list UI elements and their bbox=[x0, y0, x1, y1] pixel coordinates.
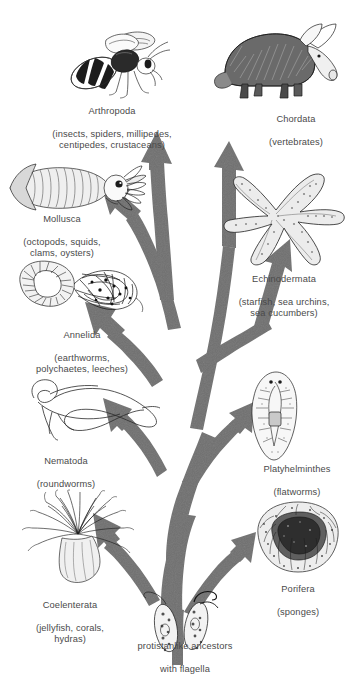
illustration-honeybee bbox=[62, 28, 172, 100]
label-porifera-comment: (sponges) bbox=[248, 607, 348, 619]
label-annelida: Annelida (earthworms, polychaetes, leech… bbox=[8, 318, 156, 388]
arrow-platyhelminthes bbox=[182, 420, 242, 489]
illustration-starfish bbox=[206, 170, 348, 268]
label-chordata-name: Chordata bbox=[236, 114, 356, 126]
label-platyhelminthes-name: Platyhelminthes bbox=[238, 464, 356, 476]
label-nematoda-comment: (roundworms) bbox=[8, 479, 124, 491]
label-annelida-name: Annelida bbox=[8, 330, 156, 342]
illustration-sponge bbox=[248, 498, 346, 578]
label-porifera-name: Porifera bbox=[248, 584, 348, 596]
label-echinodermata: Echinodermata (starfish, sea urchins, se… bbox=[212, 262, 356, 332]
label-annelida-comment: (earthworms, polychaetes, leeches) bbox=[8, 353, 156, 376]
label-mollusca-name: Mollusca bbox=[0, 214, 124, 226]
illustration-aardvark bbox=[216, 22, 344, 102]
label-arthropoda-comment: (insects, spiders, millipedes, centipede… bbox=[0, 129, 224, 152]
label-chordata-comment: (vertebrates) bbox=[236, 137, 356, 149]
label-chordata: Chordata (vertebrates) bbox=[236, 102, 356, 160]
label-platyhelminthes: Platyhelminthes (flatworms) bbox=[238, 452, 356, 510]
label-arthropoda: Arthropoda (insects, spiders, millipedes… bbox=[0, 94, 224, 164]
label-root-comment: with flagella bbox=[110, 664, 260, 676]
label-porifera: Porifera (sponges) bbox=[248, 572, 348, 630]
label-arthropoda-name: Arthropoda bbox=[0, 106, 224, 118]
label-nematoda: Nematoda (roundworms) bbox=[8, 444, 124, 502]
label-coelenterata-name: Coelenterata bbox=[8, 600, 132, 612]
label-echinodermata-comment: (starfish, sea urchins, sea cucumbers) bbox=[212, 297, 356, 320]
illustration-sea-anemone bbox=[16, 490, 140, 586]
label-echinodermata-name: Echinodermata bbox=[212, 274, 356, 286]
label-nematoda-name: Nematoda bbox=[8, 456, 124, 468]
label-mollusca-comment: (octopods, squids, clams, oysters) bbox=[0, 237, 124, 260]
illustration-flatworm bbox=[242, 368, 312, 464]
label-root-ancestors: protistanlike ancestors with flagella bbox=[110, 629, 260, 678]
label-platyhelminthes-comment: (flatworms) bbox=[238, 487, 356, 499]
label-mollusca: Mollusca (octopods, squids, clams, oyste… bbox=[0, 202, 124, 272]
label-root-name: protistanlike ancestors bbox=[110, 641, 260, 653]
